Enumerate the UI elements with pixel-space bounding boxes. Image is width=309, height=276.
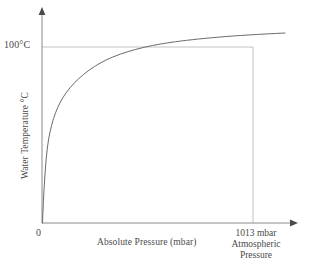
y-axis-arrow-icon (39, 7, 46, 15)
annotation-line-pressure-value: 1013 mbar (219, 228, 293, 239)
x-axis-title: Absolute Pressure (mbar) (97, 237, 197, 248)
atmospheric-pressure-annotation: 1013 mbar Atmospheric Pressure (219, 228, 293, 262)
annotation-line-atmospheric: Atmospheric (219, 239, 293, 250)
y-axis-title: Water Temperature °C (20, 83, 31, 189)
chart-figure: 100°C 0 Absolute Pressure (mbar) Water T… (0, 0, 309, 276)
annotation-line-pressure: Pressure (219, 250, 293, 261)
y-axis-tick-label-100c: 100°C (4, 39, 30, 51)
x-axis-arrow-icon (290, 220, 298, 227)
axis-origin-label: 0 (36, 227, 41, 239)
water-boiling-curve (43, 33, 286, 223)
